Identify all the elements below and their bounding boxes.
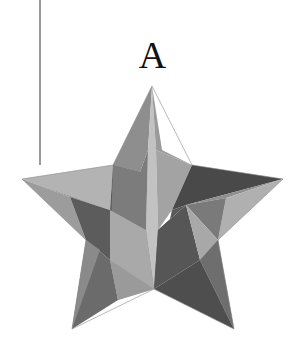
faceted-star-illustration (0, 0, 305, 363)
